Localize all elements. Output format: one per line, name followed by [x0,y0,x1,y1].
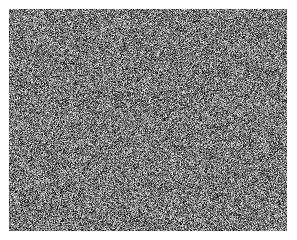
noise-field [9,9,287,231]
